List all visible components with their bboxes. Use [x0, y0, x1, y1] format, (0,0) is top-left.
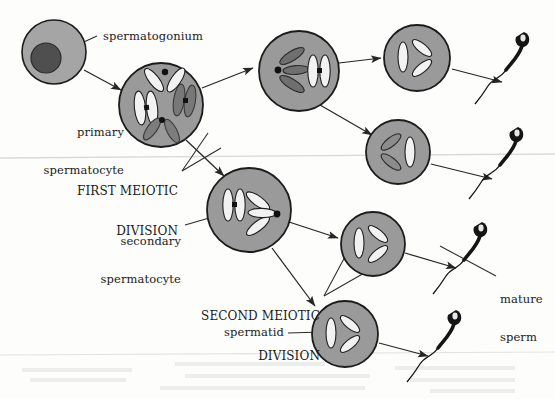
- arrow-secondaryupper-to-spermatid2: [320, 105, 372, 135]
- cell-spermatid-1: [384, 25, 450, 91]
- mature-sperm-3: [433, 222, 487, 294]
- label-secondary-spermatocyte-line1: secondary: [40, 235, 181, 248]
- label-second-meiotic-line1: SECOND MEIOTIC: [140, 310, 320, 323]
- arrow-secondarylower-to-spermatid3: [289, 222, 338, 238]
- arrow-spermatogonium-to-primary: [84, 70, 121, 90]
- arrow-spermatid4-to-sperm4: [379, 343, 428, 356]
- arrow-spermatid2-to-sperm2: [431, 164, 492, 179]
- mature-sperm-2: [469, 127, 523, 199]
- cell-spermatid-4: [312, 301, 378, 367]
- cell-spermatid-3: [341, 212, 405, 276]
- cell-spermatid-2: [366, 120, 430, 184]
- cell-secondary-spermatocyte-upper: [259, 31, 339, 111]
- label-first-meiotic-line1: FIRST MEIOTIC: [0, 185, 178, 198]
- label-mature-sperm: mature sperm: [500, 267, 543, 370]
- label-spermatid: spermatid: [170, 326, 284, 339]
- label-mature-sperm-line1: mature: [500, 293, 543, 306]
- spermatogenesis-figure: spermatogonium primary spermatocyte FIRS…: [0, 0, 555, 399]
- label-mature-sperm-line2: sperm: [500, 331, 543, 344]
- arrow-primary-to-secondary-upper: [202, 68, 253, 88]
- label-spermatogonium: spermatogonium: [103, 30, 203, 43]
- label-primary-spermatocyte-line1: primary: [0, 126, 124, 139]
- label-second-meiotic-line2: DIVISION: [140, 350, 320, 363]
- mature-sperm-1: [475, 32, 529, 104]
- arrow-secondaryupper-to-spermatid1: [339, 58, 381, 63]
- cell-secondary-spermatocyte-lower: [207, 168, 291, 252]
- mature-sperm-4: [407, 310, 461, 382]
- arrow-spermatid3-to-sperm3: [405, 253, 456, 268]
- cell-primary-spermatocyte: [119, 63, 203, 147]
- cell-spermatogonium: [22, 20, 86, 84]
- leader-mature-sperm: [440, 246, 496, 276]
